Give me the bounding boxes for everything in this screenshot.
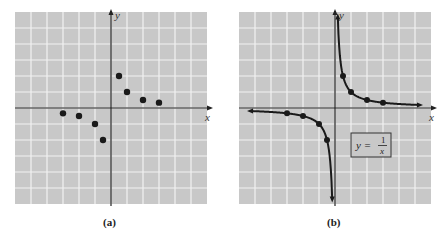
x-axis-label: x [428, 111, 434, 123]
x-axis-arrow-icon [431, 106, 437, 111]
equation-label: y =1x [351, 133, 391, 157]
data-point [284, 110, 290, 116]
data-point [364, 97, 370, 103]
data-point [300, 113, 306, 119]
data-point [324, 137, 330, 143]
equation-lhs: y = [355, 139, 371, 151]
caption-b: (b) [327, 216, 340, 228]
data-point [340, 73, 346, 79]
caption-a: (a) [103, 216, 116, 228]
data-point [316, 121, 322, 127]
data-point [348, 89, 354, 95]
data-point [380, 100, 386, 106]
equation-numerator: 1 [381, 135, 386, 145]
function-plot-b: xyy =1x [0, 0, 447, 215]
equation-denominator: x [379, 146, 384, 156]
